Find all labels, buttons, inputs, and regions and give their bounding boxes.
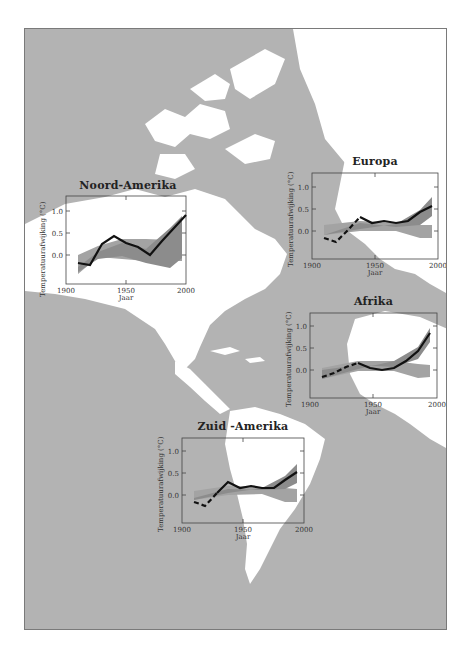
- x-axis-label: Jaar: [106, 294, 146, 302]
- ytick: 0.0: [52, 252, 63, 260]
- ytick: 1.0: [296, 323, 307, 331]
- chart-europa: 0.0 0.5 1.0 1900 1950 2000: [281, 155, 446, 285]
- y-axis-label: Temperatuurafwijking (°C): [285, 312, 293, 407]
- panel-afrika: Afrika 0.0 0.5 1.0 1900 1950 2000 Temper…: [279, 295, 444, 425]
- world-map: Noord-Amerika 0.0 0.5 1.0 1900 1950 2000…: [24, 28, 447, 630]
- xtick: 1900: [301, 401, 319, 409]
- x-axis-label: Jaar: [353, 408, 393, 416]
- ytick: 0.5: [168, 470, 179, 478]
- xtick: 2000: [177, 287, 195, 295]
- chart-noord-amerika: 0.0 0.5 1.0 1900 1950 2000: [35, 179, 200, 309]
- ytick: 0.0: [298, 228, 309, 236]
- ytick: 0.5: [298, 206, 309, 214]
- panel-noord-amerika: Noord-Amerika 0.0 0.5 1.0 1900 1950 2000…: [35, 179, 200, 309]
- x-axis-label: Jaar: [223, 533, 263, 541]
- chart-zuid-amerika: 0.0 0.5 1.0 1900 1950 2000: [151, 420, 316, 550]
- xtick: 2000: [428, 401, 446, 409]
- ytick: 1.0: [52, 208, 63, 216]
- panel-zuid-amerika: Zuid -Amerika 0.0 0.5 1.0 1900 1950 2000…: [151, 420, 316, 550]
- xtick: 2000: [429, 262, 447, 270]
- xtick: 1900: [57, 287, 75, 295]
- xtick: 1900: [303, 262, 321, 270]
- ytick: 1.0: [168, 448, 179, 456]
- ytick: 0.0: [168, 492, 179, 500]
- ytick: 1.0: [298, 184, 309, 192]
- panel-europa: Europa 0.0 0.5 1.0 1900 1950 2000 Temper…: [281, 155, 446, 285]
- x-axis-label: Jaar: [355, 269, 395, 277]
- chart-afrika: 0.0 0.5 1.0 1900 1950 2000: [279, 295, 444, 425]
- y-axis-label: Temperatuurafwijking (°C): [287, 172, 295, 267]
- y-axis-label: Temperatuurafwijking (°C): [157, 437, 165, 532]
- y-axis-label: Temperatuurafwijking (°C): [39, 202, 47, 297]
- ytick: 0.0: [296, 367, 307, 375]
- ytick: 0.5: [52, 230, 63, 238]
- xtick: 1900: [173, 526, 191, 534]
- ytick: 0.5: [296, 345, 307, 353]
- xtick: 2000: [295, 526, 313, 534]
